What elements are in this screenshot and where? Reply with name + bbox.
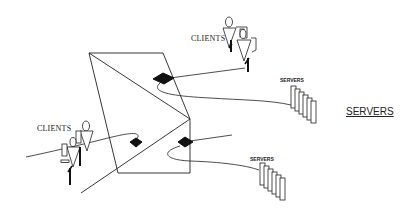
servers-main-label: SERVERS bbox=[346, 106, 394, 117]
network-nodes bbox=[130, 73, 193, 147]
clients-top-label: CLIENTS bbox=[191, 34, 225, 43]
servers-top-label: SERVERS bbox=[280, 77, 304, 83]
node-right bbox=[178, 137, 193, 147]
network-diagram: CLIENTS CLIENTS SERVERS SERVERS SERVERS bbox=[0, 0, 414, 215]
servers-top-stack bbox=[291, 86, 316, 123]
servers-bottom-label: SERVERS bbox=[250, 156, 274, 162]
node-top bbox=[153, 73, 174, 84]
network-backbone bbox=[81, 53, 190, 193]
clients-left-label: CLIENTS bbox=[37, 124, 71, 133]
clients-top-icon bbox=[223, 17, 256, 72]
servers-bottom-stack bbox=[260, 163, 285, 200]
node-left bbox=[130, 138, 142, 147]
